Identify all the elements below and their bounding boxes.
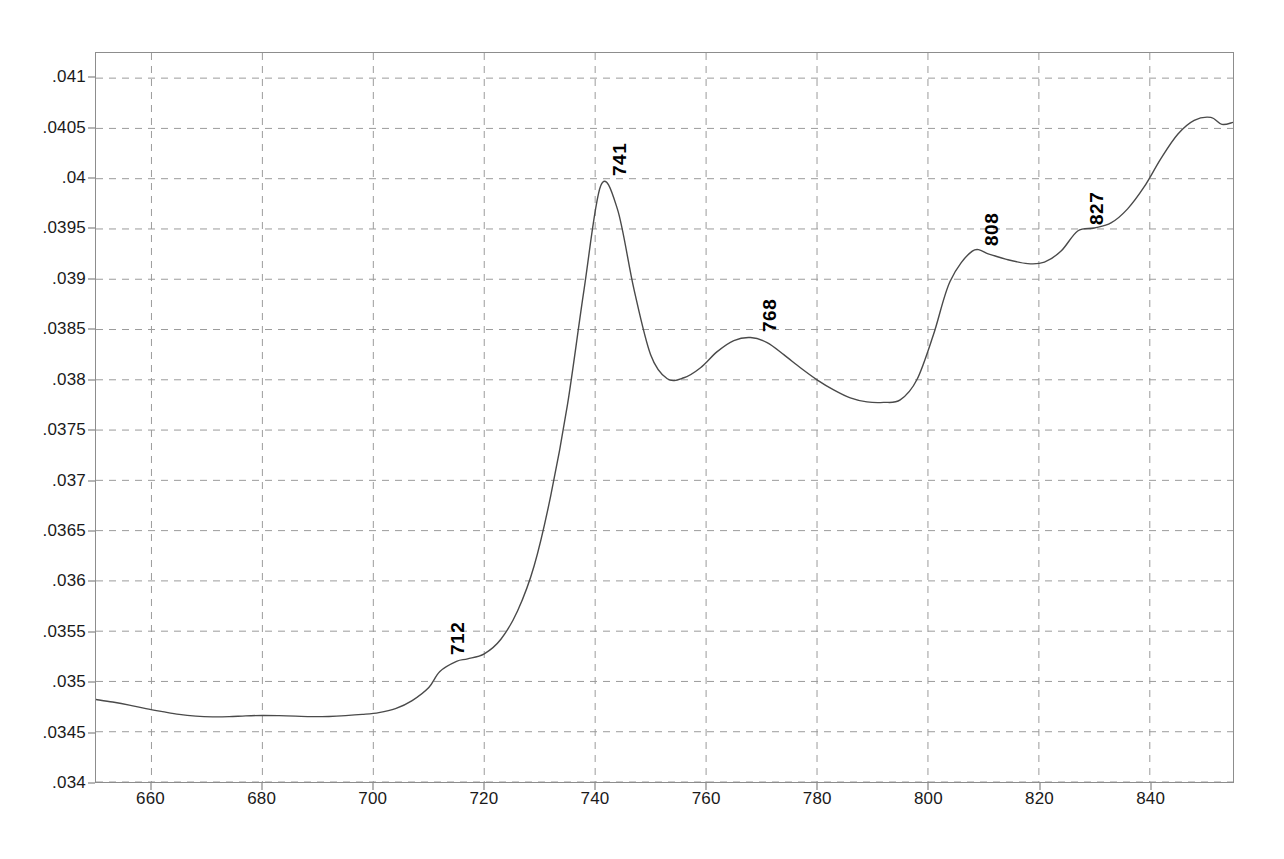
x-axis-tick-mark xyxy=(1150,783,1151,790)
x-axis-tick-label: 800 xyxy=(914,789,943,809)
y-axis-tick-mark xyxy=(88,631,95,632)
y-axis-tick-mark xyxy=(88,127,95,128)
y-axis-tick-mark xyxy=(88,530,95,531)
y-axis-tick-mark xyxy=(88,430,95,431)
x-axis-tick-label: 680 xyxy=(247,789,276,809)
x-axis-tick-label: 780 xyxy=(803,789,832,809)
peak-annotation-768: 768 xyxy=(759,299,781,332)
y-axis-tick-mark xyxy=(88,379,95,380)
x-axis-tick-label: 760 xyxy=(692,789,721,809)
chart-canvas: 712741768808827 .034.0345.035.0355.036.0… xyxy=(0,0,1284,859)
peak-annotation-827: 827 xyxy=(1086,192,1108,225)
y-axis-tick-mark xyxy=(88,329,95,330)
x-axis-tick-mark xyxy=(372,783,373,790)
peak-annotation-712: 712 xyxy=(447,622,469,655)
x-axis-tick-mark xyxy=(483,783,484,790)
x-axis-tick-mark xyxy=(817,783,818,790)
y-axis-tick-mark xyxy=(88,480,95,481)
y-axis-tick-mark xyxy=(88,278,95,279)
y-axis-tick-mark xyxy=(88,228,95,229)
peak-annotation-808: 808 xyxy=(981,212,1003,245)
y-axis-tick-mark xyxy=(88,77,95,78)
y-axis-tick-mark xyxy=(88,581,95,582)
x-axis-tick-label: 720 xyxy=(469,789,498,809)
y-axis-tick-mark xyxy=(88,783,95,784)
plot-area: 712741768808827 xyxy=(95,52,1234,783)
y-axis-tick-mark xyxy=(88,682,95,683)
x-axis-tick-mark xyxy=(928,783,929,790)
x-axis-tick-label: 660 xyxy=(136,789,165,809)
x-axis-tick-mark xyxy=(261,783,262,790)
peak-annotations: 712741768808827 xyxy=(96,53,1233,782)
x-axis-tick-mark xyxy=(595,783,596,790)
y-axis-tick-mark xyxy=(88,178,95,179)
x-axis-tick-mark xyxy=(706,783,707,790)
peak-annotation-741: 741 xyxy=(609,143,631,176)
x-axis-tick-label: 740 xyxy=(581,789,610,809)
x-axis-tick-mark xyxy=(1039,783,1040,790)
x-axis-tick-label: 700 xyxy=(358,789,387,809)
x-axis-tick-label: 820 xyxy=(1025,789,1054,809)
y-axis-tick-mark xyxy=(88,732,95,733)
x-axis-tick-mark xyxy=(150,783,151,790)
x-axis-tick-label: 840 xyxy=(1136,789,1165,809)
